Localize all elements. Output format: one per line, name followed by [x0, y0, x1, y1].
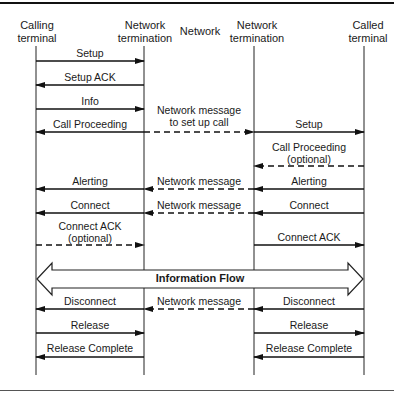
- label-info: Info: [36, 95, 144, 107]
- label-line: Connect ACK: [36, 220, 144, 232]
- label-connect-ack-1: Connect ACK (optional): [36, 220, 144, 244]
- sequence-diagram: [0, 0, 394, 395]
- label-release-complete-1: Release Complete: [36, 342, 144, 354]
- label-connect-1: Connect: [36, 199, 144, 211]
- label-network-alerting: Network message: [144, 175, 254, 187]
- label-connect-2: Connect: [254, 199, 364, 211]
- label-line: Call Proceeding: [254, 141, 364, 153]
- label-release-2: Release: [254, 319, 364, 331]
- label-connect-ack-2: Connect ACK: [254, 231, 364, 243]
- label-network-connect: Network message: [144, 199, 254, 211]
- label-release-1: Release: [36, 319, 144, 331]
- label-network-setup: Network message to set up call: [144, 104, 254, 128]
- label-line: to set up call: [144, 116, 254, 128]
- label-call-proceeding-2: Call Proceeding (optional): [254, 141, 364, 165]
- label-alerting-1: Alerting: [36, 175, 144, 187]
- label-information-flow: Information Flow: [52, 272, 348, 284]
- label-setup-ack: Setup ACK: [36, 71, 144, 83]
- label-line: (optional): [36, 232, 144, 244]
- label-setup-2: Setup: [254, 118, 364, 130]
- label-release-complete-2: Release Complete: [254, 342, 364, 354]
- label-alerting-2: Alerting: [254, 175, 364, 187]
- bottom-border-rule: [0, 390, 394, 391]
- label-line: Network message: [144, 104, 254, 116]
- label-disconnect-1: Disconnect: [36, 295, 144, 307]
- label-line: (optional): [254, 153, 364, 165]
- label-setup-1: Setup: [36, 47, 144, 59]
- label-network-disconnect: Network message: [144, 295, 254, 307]
- label-call-proceeding-1: Call Proceeding: [36, 118, 144, 130]
- label-disconnect-2: Disconnect: [254, 295, 364, 307]
